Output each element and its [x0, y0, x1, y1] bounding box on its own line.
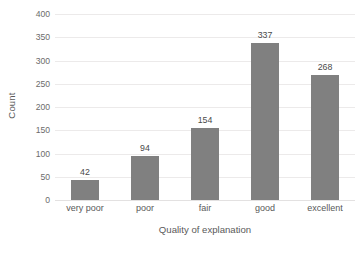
x-axis-tick-label: fair	[199, 203, 212, 213]
y-axis-tick-label: 300	[20, 56, 50, 66]
x-axis-tick-label: very poor	[66, 203, 104, 213]
y-axis-tick-labels: 400350300250200150100500	[20, 14, 50, 200]
bar-value-label: 337	[258, 30, 273, 40]
y-axis-tick-label: 250	[20, 79, 50, 89]
y-axis-tick-label: 0	[20, 195, 50, 205]
bar-slot: 94	[115, 14, 175, 200]
bar-value-label: 94	[140, 143, 150, 153]
y-axis-tick-label: 350	[20, 32, 50, 42]
bar-slot: 337	[235, 14, 295, 200]
x-axis-tick-labels: very poorpoorfairgoodexcellent	[55, 203, 355, 221]
bar-slot: 268	[295, 14, 355, 200]
x-axis-tick-label: poor	[136, 203, 154, 213]
bars: 4294154337268	[55, 14, 355, 200]
bar[interactable]	[251, 43, 279, 200]
bar-value-label: 42	[80, 167, 90, 177]
y-axis-title-label: Count	[6, 92, 17, 118]
bar[interactable]	[71, 180, 99, 200]
y-axis-tick-label: 400	[20, 9, 50, 19]
x-axis-tick-label: good	[255, 203, 275, 213]
bar[interactable]	[311, 75, 339, 200]
bar[interactable]	[131, 156, 159, 200]
bar-value-label: 268	[318, 62, 333, 72]
y-axis-tick-label: 150	[20, 125, 50, 135]
bar-slot: 42	[55, 14, 115, 200]
bar[interactable]	[191, 128, 219, 200]
y-axis-tick-label: 100	[20, 149, 50, 159]
x-axis-tick-label: excellent	[307, 203, 343, 213]
plot-area: 4294154337268	[55, 14, 355, 200]
y-axis-tick-label: 200	[20, 102, 50, 112]
y-axis-title: Count	[0, 0, 22, 210]
bar-value-label: 154	[198, 115, 213, 125]
bar-slot: 154	[175, 14, 235, 200]
x-axis-title: Quality of explanation	[55, 224, 355, 235]
gridline	[55, 200, 355, 201]
y-axis-tick-label: 50	[20, 172, 50, 182]
bar-chart: Count 400350300250200150100500 429415433…	[0, 0, 364, 255]
